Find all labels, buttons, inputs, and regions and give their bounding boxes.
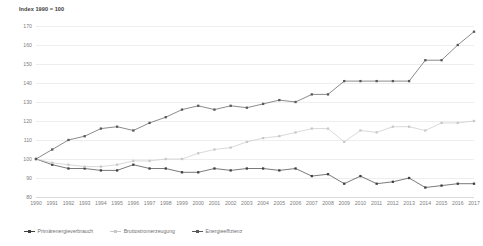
y-axis-tick-label: 100 bbox=[23, 156, 32, 162]
data-point-marker bbox=[197, 171, 199, 173]
x-axis-tick-label: 1991 bbox=[46, 200, 58, 206]
legend-item[interactable]: Primärenergieverbrauch bbox=[24, 228, 93, 234]
data-point-marker bbox=[343, 141, 345, 143]
data-point-marker bbox=[408, 177, 410, 179]
data-point-marker bbox=[51, 148, 53, 150]
data-point-marker bbox=[148, 122, 150, 124]
x-axis-tick-label: 2007 bbox=[306, 200, 318, 206]
data-point-marker bbox=[424, 129, 426, 131]
x-axis-tick-label: 1990 bbox=[30, 200, 42, 206]
data-point-marker bbox=[262, 137, 264, 139]
data-point-marker bbox=[197, 105, 199, 107]
x-axis-tick-label: 2013 bbox=[403, 200, 415, 206]
x-axis-tick-label: 2008 bbox=[322, 200, 334, 206]
legend-item[interactable]: Bruttostromerzeugung bbox=[110, 228, 175, 234]
data-point-marker bbox=[376, 131, 378, 133]
y-axis-tick-label: 120 bbox=[23, 118, 32, 124]
data-point-marker bbox=[294, 131, 296, 133]
data-series bbox=[35, 120, 475, 168]
data-point-marker bbox=[230, 146, 232, 148]
data-point-marker bbox=[116, 164, 118, 166]
legend-item-label: Energieeffizienz bbox=[205, 228, 242, 234]
data-point-marker bbox=[262, 167, 264, 169]
data-point-marker bbox=[213, 108, 215, 110]
data-point-marker bbox=[440, 184, 442, 186]
legend-item-label: Primärenergieverbrauch bbox=[38, 228, 94, 234]
data-point-marker bbox=[473, 120, 475, 122]
data-point-marker bbox=[376, 183, 378, 185]
data-point-marker bbox=[343, 183, 345, 185]
data-point-marker bbox=[132, 160, 134, 162]
data-point-marker bbox=[116, 169, 118, 171]
y-axis-tick-label: 90 bbox=[26, 175, 32, 181]
data-point-marker bbox=[327, 127, 329, 129]
x-axis-tick-label: 2005 bbox=[274, 200, 286, 206]
data-point-marker bbox=[51, 162, 53, 164]
data-point-marker bbox=[359, 129, 361, 131]
data-point-marker bbox=[132, 164, 134, 166]
data-point-marker bbox=[165, 158, 167, 160]
legend-marker-icon bbox=[192, 229, 203, 234]
data-point-marker bbox=[246, 141, 248, 143]
data-point-marker bbox=[84, 135, 86, 137]
data-point-marker bbox=[327, 173, 329, 175]
x-axis-tick-label: 2004 bbox=[257, 200, 269, 206]
x-axis-tick-label: 1992 bbox=[63, 200, 75, 206]
plot-area: 8090100110120130140150160170 bbox=[36, 26, 474, 197]
x-axis-tick-label: 1999 bbox=[176, 200, 188, 206]
data-point-marker bbox=[116, 126, 118, 128]
data-series bbox=[35, 31, 475, 161]
legend: PrimärenergieverbrauchBruttostromerzeugu… bbox=[24, 228, 242, 234]
axis-title: Index 1990 = 100 bbox=[19, 6, 64, 12]
x-axis-tick-label: 1993 bbox=[79, 200, 91, 206]
data-point-marker bbox=[392, 80, 394, 82]
x-axis-tick-label: 2003 bbox=[241, 200, 253, 206]
data-point-marker bbox=[100, 165, 102, 167]
x-axis-tick-label: 2001 bbox=[209, 200, 221, 206]
data-point-marker bbox=[148, 167, 150, 169]
y-axis-tick-label: 130 bbox=[23, 99, 32, 105]
data-point-marker bbox=[473, 31, 475, 33]
data-point-marker bbox=[440, 59, 442, 61]
data-point-marker bbox=[424, 59, 426, 61]
data-point-marker bbox=[278, 99, 280, 101]
x-axis-tick-label: 1994 bbox=[95, 200, 107, 206]
data-point-marker bbox=[262, 103, 264, 105]
data-point-marker bbox=[392, 126, 394, 128]
data-point-marker bbox=[408, 80, 410, 82]
chart-container: Index 1990 = 100 80901001101201301401501… bbox=[0, 0, 483, 246]
data-point-marker bbox=[311, 127, 313, 129]
data-point-marker bbox=[473, 183, 475, 185]
data-point-marker bbox=[230, 169, 232, 171]
x-axis-tick-label: 1995 bbox=[111, 200, 123, 206]
data-point-marker bbox=[197, 152, 199, 154]
legend-marker-icon bbox=[110, 229, 121, 234]
data-point-marker bbox=[424, 186, 426, 188]
y-axis-tick-label: 170 bbox=[23, 23, 32, 29]
data-point-marker bbox=[213, 148, 215, 150]
x-axis-tick-label: 2011 bbox=[371, 200, 382, 206]
data-point-marker bbox=[181, 158, 183, 160]
data-point-marker bbox=[165, 167, 167, 169]
data-point-marker bbox=[246, 107, 248, 109]
x-axis-labels: 1990199119921993199419951996199719981999… bbox=[36, 200, 474, 212]
x-axis-tick-label: 2014 bbox=[420, 200, 432, 206]
legend-item-label: Bruttostromerzeugung bbox=[124, 228, 175, 234]
data-point-marker bbox=[294, 167, 296, 169]
data-point-marker bbox=[67, 139, 69, 141]
data-point-marker bbox=[67, 164, 69, 166]
data-point-marker bbox=[213, 167, 215, 169]
legend-item[interactable]: Energieeffizienz bbox=[192, 228, 242, 234]
x-axis-tick-label: 1996 bbox=[128, 200, 140, 206]
x-axis-tick-label: 2015 bbox=[436, 200, 448, 206]
x-axis-tick-label: 2000 bbox=[192, 200, 204, 206]
data-point-marker bbox=[67, 167, 69, 169]
data-point-marker bbox=[457, 44, 459, 46]
data-point-marker bbox=[84, 165, 86, 167]
data-point-marker bbox=[311, 93, 313, 95]
x-axis-tick-label: 2006 bbox=[290, 200, 302, 206]
x-axis-tick-label: 2002 bbox=[225, 200, 237, 206]
data-point-marker bbox=[181, 108, 183, 110]
data-point-marker bbox=[35, 158, 37, 160]
data-point-marker bbox=[278, 169, 280, 171]
